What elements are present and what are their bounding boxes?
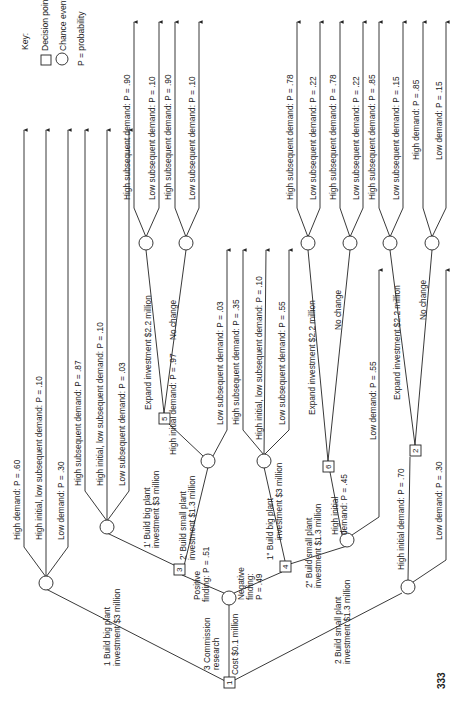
subtree-positive-finding: 1' Build big plant investment $3 million…	[73, 22, 227, 566]
leaf-label: Low subsequent demand: P = .55	[277, 301, 287, 425]
chance-event-icon	[56, 53, 68, 65]
leaf-label: High subsequent demand: P = .90	[122, 74, 132, 200]
decision-node-6: 6	[323, 461, 334, 472]
branch-label: investment $1.3 million	[313, 503, 323, 588]
leaf-label: Low subsequent demand: P = .15	[391, 76, 401, 200]
leaf-label: High initial, low subsequent demand: P =…	[34, 376, 44, 540]
chance-node	[401, 580, 415, 594]
chance-node	[343, 236, 357, 250]
branch-label: Cost $0.1 million	[230, 613, 240, 675]
key-title: Key:	[20, 33, 30, 50]
branch-label: Expand investment $2.2 million	[392, 285, 402, 400]
leaf-label: High initial, low subsequent demand: P =…	[95, 322, 105, 486]
leaf-label: High demand: P = .85	[411, 79, 421, 160]
branch-label: research	[211, 637, 221, 670]
decision-node-4: 4	[280, 561, 291, 572]
key-chance-label: Chance event	[58, 0, 68, 51]
branch-label: 1 Build big plant	[102, 606, 112, 666]
leaf-label: Low demand: P = .30	[56, 461, 66, 540]
leaf-label: Low subsequent demand: P = .10	[147, 76, 157, 200]
leaf-label: Low subsequent demand: P = .10	[187, 76, 197, 200]
chance-node	[383, 236, 397, 250]
decision-node-1: 1	[224, 677, 235, 688]
leaf-label: Low demand: P = .55	[368, 361, 378, 440]
branch-label: investment $3 million	[151, 470, 161, 548]
key-decision-label: Decision point	[40, 0, 50, 51]
chance-node	[100, 520, 114, 534]
node-number: 4	[281, 564, 290, 569]
branch-label: High initial demand: P = .97	[168, 353, 178, 455]
leaf-label: High subsequent demand: P = .78	[285, 74, 295, 200]
branch-build-small-plant: 2 Build small plant investment $1.3 mill…	[333, 22, 446, 664]
decision-nodes: 1 2 3 4 5 6	[159, 413, 421, 688]
branch-build-big-plant: 1 Build big plant investment $3 million …	[12, 130, 122, 666]
chance-node	[201, 454, 215, 468]
node-number: 2	[411, 448, 420, 453]
decision-node-3: 3	[174, 564, 185, 575]
leaf-label: Low subsequent demand: P = .03	[215, 301, 225, 425]
leaf-label: Low subsequent demand: P = .03	[117, 362, 127, 486]
leaf-label: High subsequent demand: P = .78	[328, 74, 338, 200]
leaf-label: Low subsequent demand: P = .22	[308, 76, 318, 200]
chance-node	[257, 454, 271, 468]
page-number: 333	[436, 672, 447, 689]
chance-node	[301, 236, 315, 250]
leaf-label: High subsequent demand: P = .85	[367, 74, 377, 200]
decision-point-icon	[41, 55, 51, 65]
leaf-label: High subsequent demand: P = .35	[231, 299, 241, 425]
branch-label: investment $1.3 million	[187, 475, 197, 560]
leaf-label: High demand: P = .60	[12, 459, 22, 540]
decision-tree-diagram: Key: Decision point Chance event P = pro…	[0, 0, 457, 703]
node-number: 3	[175, 567, 184, 572]
decision-node-5: 5	[159, 413, 170, 424]
leaf-label: High subsequent demand: P = .87	[73, 360, 83, 486]
leaf-label: Low demand: P = .15	[434, 81, 444, 160]
branch-label: No change	[168, 299, 178, 340]
branch-label: No change	[333, 289, 343, 330]
research-chance-node	[222, 591, 236, 605]
leaf-label: Low subsequent demand: P = .22	[351, 76, 361, 200]
branch-label: High initial demand: P = .70	[396, 468, 406, 570]
branch-label: investment $3 million	[112, 588, 122, 666]
branch-label: No change	[418, 279, 428, 320]
subtree-negative-finding: 1" Build big plant investment $3 million…	[231, 22, 379, 588]
branch-label: demand: P = .45	[339, 474, 349, 535]
branch-commission-research: 3 Commission research Cost $0.1 million …	[182, 546, 282, 675]
key-legend: Key: Decision point Chance event P = pro…	[20, 0, 86, 66]
branch-label: investment $1.3 million	[342, 579, 352, 664]
node-number: 1	[225, 680, 234, 685]
node-number: 6	[324, 464, 333, 469]
leaf-label: Low demand: P = .30	[434, 461, 444, 540]
chance-node	[39, 576, 53, 590]
node-number: 5	[160, 416, 169, 421]
finding-label: P = .49	[254, 573, 264, 600]
branch-label: Expand investment $2.2 million	[307, 300, 317, 415]
key-probability-label: P = probability	[76, 11, 86, 66]
finding-label: finding: P = .51	[201, 546, 211, 602]
leaf-label: High subsequent demand: P = .90	[163, 74, 173, 200]
decision-node-2: 2	[410, 445, 421, 456]
branch-label: investment $3 million	[274, 462, 284, 540]
chance-node	[139, 236, 153, 250]
branch-label: Expand investment $2.2 million	[143, 295, 153, 410]
chance-node	[179, 236, 193, 250]
leaf-label: High initial, low subsequent demand: P =…	[254, 276, 264, 440]
chance-node	[425, 236, 439, 250]
